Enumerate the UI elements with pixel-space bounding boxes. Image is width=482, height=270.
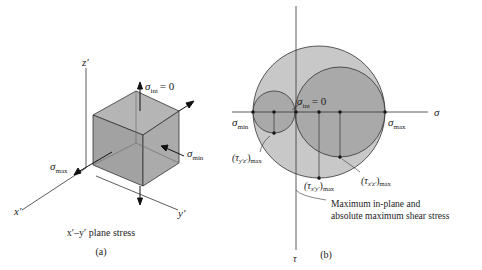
sigma-max-label: σmax — [50, 160, 68, 175]
note-line-1: Maximum in-plane and — [331, 199, 420, 209]
note-line-2: absolute maximum shear stress — [331, 211, 450, 221]
tau-yz-point — [273, 132, 276, 135]
sigma-axis-label: σ — [434, 106, 440, 118]
sigma-max-label: σmax — [388, 116, 406, 131]
tau-xz-label: (τx′z′)max — [361, 175, 391, 187]
figure-a-caption: x′–y′ plane stress — [67, 227, 135, 238]
arrow-head-icon — [138, 198, 143, 205]
arrow-head-icon — [74, 168, 81, 175]
tau-yz-label: (τy′z′)max — [232, 152, 262, 164]
tau-xz-point — [339, 156, 342, 159]
sigma-int-point — [295, 111, 298, 114]
sigma-min-point — [252, 111, 255, 114]
figure-b: σ τ σint= 0 σmin σmax (τy′z′) — [232, 6, 450, 264]
point — [273, 111, 276, 114]
sigma-max-point — [384, 111, 387, 114]
point — [339, 111, 342, 114]
tau-axis-label: τ — [293, 253, 297, 264]
z-axis-label: z′ — [81, 56, 89, 68]
arrow-head-icon — [186, 101, 194, 108]
sigma-min-label: σmin — [232, 116, 249, 131]
figure-b-label: (b) — [320, 249, 332, 261]
sigma-int-label: σint= 0 — [145, 80, 175, 95]
figure-a: z′ x′ y′ σint= 0 σmin σmax x′–y′ plane s… — [13, 56, 204, 258]
y-axis-label: y′ — [177, 207, 186, 219]
tau-xy-label: (τx′y′)max — [304, 180, 335, 192]
sigma-min-label: σmin — [187, 147, 204, 162]
x-axis-label: x′ — [13, 205, 22, 217]
point — [318, 111, 321, 114]
figure-canvas: z′ x′ y′ σint= 0 σmin σmax x′–y′ plane s… — [0, 0, 482, 270]
arrow-head-icon — [138, 82, 143, 89]
figure-a-label: (a) — [95, 246, 106, 258]
